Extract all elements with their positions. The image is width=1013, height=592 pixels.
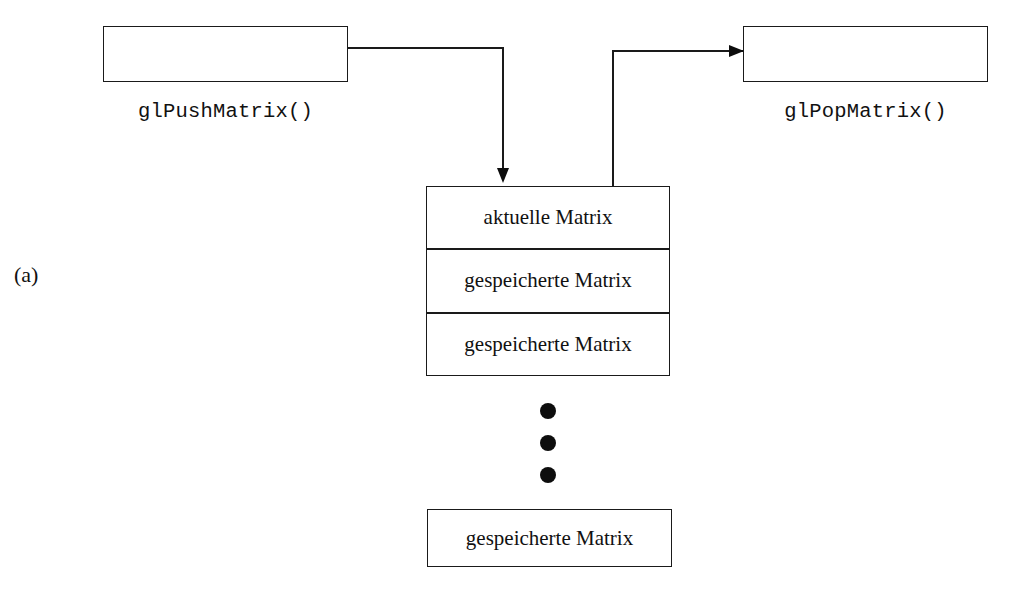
figure-canvas: (a) glPushMatrix() glPopMatrix() aktuell… [0, 0, 1013, 592]
matrix-stack: aktuelle Matrix gespeicherte Matrix gesp… [426, 186, 670, 376]
pop-connector-horizontal [612, 50, 743, 52]
matrix-stack-cell-text: gespeicherte Matrix [464, 332, 631, 357]
pop-connector-vertical [612, 51, 614, 187]
ellipsis-dot [540, 403, 556, 419]
matrix-stack-cell-saved-1: gespeicherte Matrix [427, 248, 669, 311]
matrix-stack-cell-text: gespeicherte Matrix [466, 526, 633, 551]
push-matrix-box [103, 26, 348, 82]
pop-matrix-box [743, 26, 988, 82]
pop-arrowhead-icon [729, 45, 744, 57]
push-connector-vertical [502, 47, 504, 169]
matrix-stack-cell-text: aktuelle Matrix [484, 205, 613, 230]
pop-matrix-label: glPopMatrix() [743, 100, 988, 123]
push-connector-horizontal [347, 47, 504, 49]
matrix-stack-cell-saved-2: gespeicherte Matrix [427, 312, 669, 375]
matrix-stack-cell-saved-bottom: gespeicherte Matrix [427, 509, 672, 567]
push-matrix-label: glPushMatrix() [103, 100, 348, 123]
push-arrowhead-icon [497, 168, 509, 183]
matrix-stack-cell-text: gespeicherte Matrix [464, 268, 631, 293]
ellipsis-dot [540, 467, 556, 483]
matrix-stack-cell-current: aktuelle Matrix [427, 187, 669, 248]
vertical-ellipsis-icon [540, 400, 557, 486]
ellipsis-dot [540, 435, 556, 451]
figure-label: (a) [14, 262, 38, 288]
